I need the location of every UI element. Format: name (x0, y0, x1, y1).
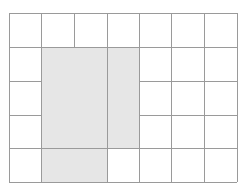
shaded-cell (41, 148, 74, 182)
shaded-cell (41, 115, 74, 148)
grid-diagram (0, 0, 245, 188)
shaded-cell (107, 115, 139, 148)
shaded-cell (41, 81, 74, 115)
shaded-cell (74, 115, 107, 148)
shaded-cell (41, 47, 74, 81)
shaded-cell (107, 47, 139, 81)
shaded-cell (74, 81, 107, 115)
shaded-cell (74, 47, 107, 81)
shaded-cell (74, 148, 107, 182)
shaded-cell (107, 81, 139, 115)
